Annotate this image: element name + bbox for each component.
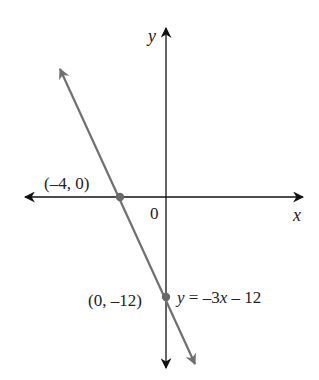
coordinate-plane: y x 0 (–4, 0) (0, –12) y = –3x – 12 [0,0,319,380]
equation-label: y = –3x – 12 [175,288,261,307]
point-x-intercept [116,193,124,201]
equation-rest: = –3 [185,288,220,307]
point-y-intercept [162,293,170,301]
graph-line [60,69,195,364]
origin-label: 0 [150,204,159,223]
point-label-y-intercept: (0, –12) [88,291,142,310]
graph: y x 0 (–4, 0) (0, –12) y = –3x – 12 [0,0,319,380]
point-label-x-intercept: (–4, 0) [44,174,89,193]
x-axis-label: x [292,205,301,225]
y-axis-label: y [146,26,156,46]
